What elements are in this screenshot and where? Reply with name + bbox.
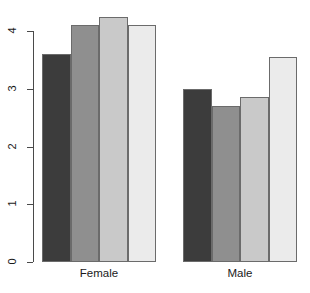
x-axis-label-male: Male <box>183 267 297 279</box>
plot-area <box>0 0 310 293</box>
bar-female-1 <box>42 54 71 262</box>
bar-male-1 <box>183 89 212 262</box>
bar-female-3 <box>99 17 128 262</box>
x-axis-label-female: Female <box>42 267 156 279</box>
bar-chart: 01234 FemaleMale <box>0 0 310 293</box>
bar-male-2 <box>212 106 241 262</box>
bar-male-3 <box>240 97 269 262</box>
bar-female-2 <box>71 25 100 262</box>
bar-female-4 <box>128 25 157 262</box>
bar-male-4 <box>269 57 298 262</box>
